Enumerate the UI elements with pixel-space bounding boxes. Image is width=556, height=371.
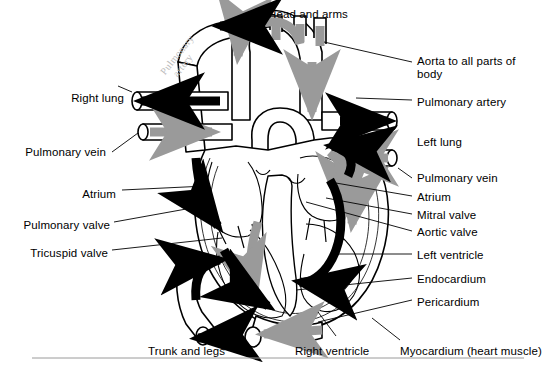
rpv-cut-end bbox=[138, 124, 148, 140]
leader-aorta bbox=[324, 42, 412, 62]
label-pulmonary-vein-right: Pulmonary vein bbox=[417, 172, 498, 185]
label-left-ventricle: Left ventricle bbox=[417, 249, 484, 262]
label-aorta-to-all-parts-of-body: Aorta to all parts of body bbox=[417, 55, 537, 81]
leader-pulmonary-vein-r bbox=[398, 168, 412, 178]
label-aortic-valve: Aortic valve bbox=[417, 226, 478, 239]
leader-myocardium bbox=[372, 318, 400, 340]
label-pulmonary-artery: Pulmonary artery bbox=[417, 96, 506, 109]
label-atrium-left: Atrium bbox=[0, 188, 116, 201]
lpv-cut-end bbox=[387, 150, 397, 166]
label-tricuspid-valve: Tricuspid valve bbox=[0, 247, 108, 260]
label-mitral-valve: Mitral valve bbox=[417, 209, 476, 222]
label-pulmonary-vein-left: Pulmonary vein bbox=[0, 146, 106, 159]
label-right-lung: Right lung bbox=[0, 92, 124, 105]
label-atrium-right: Atrium bbox=[417, 191, 451, 204]
label-right-ventricle: Right ventricle bbox=[295, 345, 369, 358]
label-trunk-and-legs: Trunk and legs bbox=[148, 345, 225, 358]
label-left-lung: Left lung bbox=[417, 136, 462, 149]
lpa-cut-end bbox=[387, 112, 397, 130]
label-head-and-arms: Head and arms bbox=[268, 8, 348, 21]
label-endocardium: Endocardium bbox=[417, 273, 486, 286]
leader-pulmonary-vein-l bbox=[112, 133, 138, 152]
black-arrow-ivc-cut-out bbox=[198, 336, 226, 338]
label-pericardium: Pericardium bbox=[417, 296, 479, 309]
descending-aorta-cut-end bbox=[245, 327, 261, 347]
leader-pulmonary-artery bbox=[356, 98, 412, 100]
heart-diagram: Head and arms Right lung Pulmonary vein … bbox=[0, 0, 556, 371]
gray-arrow-descending-aorta bbox=[264, 330, 322, 334]
rpa-cut-end bbox=[132, 92, 142, 110]
leader-atrium-l bbox=[122, 186, 206, 190]
label-myocardium: Myocardium (heart muscle) bbox=[400, 345, 542, 358]
label-pulmonary-valve: Pulmonary valve bbox=[0, 219, 110, 232]
